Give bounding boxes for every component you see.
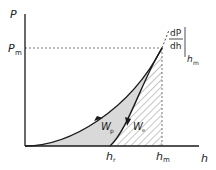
hr-sub: r bbox=[113, 156, 116, 163]
y-axis-label: P bbox=[10, 8, 17, 21]
slope-numerator: dP bbox=[170, 28, 182, 38]
pmax-label: P bbox=[8, 42, 15, 55]
hm-sub: m bbox=[163, 156, 170, 164]
we-sub: e bbox=[142, 127, 145, 133]
slope-eval-sub: m bbox=[193, 59, 199, 66]
wp-sub: p bbox=[110, 127, 114, 135]
hr-label: h bbox=[106, 150, 113, 163]
hm-label: h bbox=[156, 150, 163, 163]
slope-tangent-line bbox=[162, 30, 169, 48]
indentation-diagram: P h P m h r h m W p W e dP dh h m bbox=[0, 0, 216, 170]
x-axis-label: h bbox=[201, 152, 208, 165]
pmax-sub: m bbox=[15, 49, 22, 57]
slope-denominator: dh bbox=[170, 41, 181, 51]
